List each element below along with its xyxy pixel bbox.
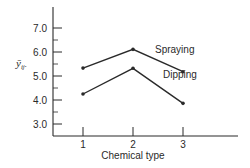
series-label-dipping: Dipping [163, 69, 197, 80]
y-tick-label: 3.0 [33, 119, 47, 130]
x-tick-label: 3 [180, 139, 186, 150]
x-tick-label: 2 [130, 139, 136, 150]
y-axis-label: ȳij. [15, 57, 27, 71]
y-tick-label: 4.0 [33, 95, 47, 106]
y-tick-label: 5.0 [33, 71, 47, 82]
x-tick-label: 1 [80, 139, 86, 150]
data-point [81, 66, 85, 70]
interaction-plot: 3.04.05.06.07.0 123 ȳij. Chemical type S… [0, 0, 250, 168]
x-ticks: 123 [80, 127, 186, 150]
x-axis-label: Chemical type [101, 150, 165, 161]
data-point [131, 67, 135, 71]
y-tick-label: 7.0 [33, 23, 47, 34]
y-tick-label: 6.0 [33, 47, 47, 58]
series-label-spraying: Spraying [155, 44, 194, 55]
data-point [131, 48, 135, 52]
data-point [81, 92, 85, 96]
data-point [181, 102, 185, 106]
y-ticks: 3.04.05.06.07.0 [33, 23, 62, 130]
